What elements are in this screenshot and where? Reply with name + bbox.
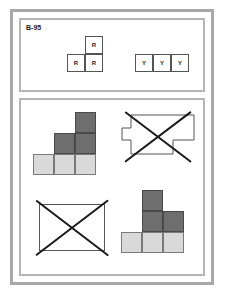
answer-cell [54,133,75,154]
prompt-cell-r: R [67,54,85,72]
answer-cell [75,112,96,133]
prompt-cell-y: Y [171,54,189,72]
cell-letter: R [68,55,84,71]
prompt-stage: RRRYYY [21,20,203,90]
answer-cell [142,232,163,253]
puzzle-card: B-95 RRRYYY [10,9,214,285]
cell-letter: Y [154,55,170,71]
prompt-cell-r: R [85,36,103,54]
answer-cell [54,154,75,175]
answer-cell [75,154,96,175]
prompt-cell-y: Y [153,54,171,72]
cell-letter: R [86,55,102,71]
answer-cell [142,211,163,232]
answer-cell [33,154,54,175]
answer-cell [75,133,96,154]
prompt-cell-r: R [85,54,103,72]
prompt-cell-y: Y [135,54,153,72]
answer-cell [163,232,184,253]
answers-panel [19,98,205,276]
answer-irregular-outline[interactable] [121,114,195,162]
cell-letter: Y [136,55,152,71]
answer-cell [142,190,163,211]
answer-cell [121,232,142,253]
cell-letter: R [86,37,102,53]
answers-stage [21,100,203,274]
cell-letter: Y [172,55,188,71]
answer-cell [163,211,184,232]
answer-plain-rectangle[interactable] [39,204,105,251]
prompt-panel: B-95 RRRYYY [19,18,205,92]
